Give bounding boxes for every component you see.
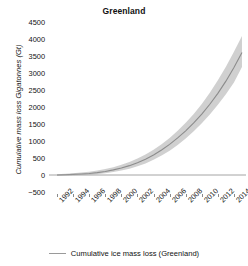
legend-label: Cumulative ice mass loss (Greenland) [71, 249, 199, 258]
y-axis-tick-labels: 450040003500300025002000150010005000−500 [0, 22, 45, 192]
y-tick-label: 500 [33, 154, 45, 163]
chart-figure: Greenland Cumulative mass loss Gigatonne… [0, 0, 248, 266]
y-tick-label: 4000 [29, 35, 45, 44]
x-axis-tick-labels: 1992199419961998200020022004200620082010… [49, 194, 246, 240]
y-tick-label: −500 [28, 188, 45, 197]
y-tick-label: 1500 [29, 120, 45, 129]
legend-line-swatch [49, 253, 66, 254]
y-tick-label: 3500 [29, 52, 45, 61]
y-tick-label: 2000 [29, 103, 45, 112]
chart-legend: Cumulative ice mass loss (Greenland) [0, 249, 248, 258]
y-tick-label: 2500 [29, 86, 45, 95]
chart-title: Greenland [0, 6, 248, 16]
y-tick-label: 0 [41, 171, 45, 180]
uncertainty-band [57, 36, 242, 176]
y-tick-label: 1000 [29, 137, 45, 146]
chart-canvas [49, 22, 246, 192]
ice-mass-loss-line [57, 53, 242, 175]
y-tick-label: 3000 [29, 69, 45, 78]
plot-area [49, 22, 246, 192]
y-tick-label: 4500 [29, 18, 45, 27]
